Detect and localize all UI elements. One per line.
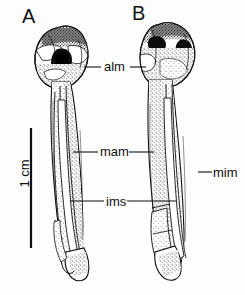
bone-a: [35, 26, 90, 281]
panel-label-a: A: [22, 6, 35, 26]
panel-label-b: B: [132, 3, 145, 23]
annotation-label-mim: mim: [213, 166, 238, 179]
leader-lines: [70, 67, 212, 201]
annotation-label-alm: alm: [104, 60, 125, 73]
bone-a-proximal-head: [35, 26, 90, 90]
scale-bar-label: 1 cm: [17, 144, 32, 204]
figure-canvas: A B alm mam ims mim 1 cm: [0, 0, 245, 295]
annotation-label-ims: ims: [106, 195, 126, 208]
annotation-label-mam: mam: [100, 145, 129, 158]
